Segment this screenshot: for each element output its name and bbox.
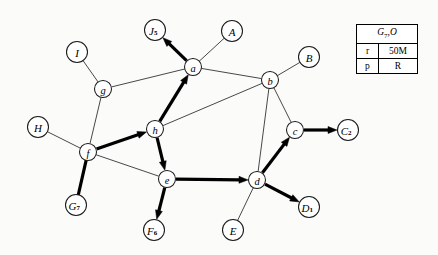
node-subscript-F6: 6 (154, 229, 158, 237)
graph-node-J5[interactable]: J5 (145, 20, 166, 41)
graph-node-I[interactable]: I (67, 42, 88, 63)
graph-edge-e-d (176, 176, 248, 183)
table-row: p R (357, 58, 418, 73)
graph-node-B[interactable]: B (299, 47, 320, 68)
node-label-B: B (306, 52, 313, 64)
graph-edge-a-J5 (163, 38, 187, 61)
node-subscript-C2: 2 (348, 129, 352, 137)
node-label-H: H (33, 122, 43, 134)
graph-node-c[interactable]: c (287, 122, 304, 139)
graph-edge-f-h (97, 132, 147, 150)
node-subscript-D1: 1 (309, 206, 313, 214)
table-cell-key-p: p (357, 58, 379, 73)
table-header-cell: G7,O (357, 25, 418, 44)
graph-node-e[interactable]: e (159, 171, 176, 188)
table-cell-key-r: r (357, 43, 379, 58)
node-label-A: A (228, 26, 236, 38)
graph-edge-I-g (83, 61, 98, 82)
node-label-E: E (229, 225, 237, 237)
graph-node-f[interactable]: f (80, 144, 97, 161)
graph-node-g[interactable]: g (95, 81, 112, 98)
graph-edge-b-d (258, 89, 269, 171)
graph-edge-B-b (278, 63, 300, 76)
graph-edge-H-f (48, 132, 80, 148)
graph-node-h[interactable]: h (147, 121, 164, 138)
graph-edge-A-a (200, 38, 224, 60)
graph-node-D1[interactable]: D1 (299, 197, 320, 218)
table-header-tail: ,O (388, 27, 397, 37)
graph-edge-e-F6 (156, 188, 165, 220)
table-header-row: G7,O (357, 25, 418, 44)
arrowhead (137, 132, 147, 139)
node-label-a: a (190, 62, 195, 73)
graph-node-G7[interactable]: G7 (66, 195, 87, 216)
node-label-g: g (100, 84, 105, 95)
graph-edge-h-a (160, 75, 189, 122)
arrowhead (159, 161, 166, 171)
graph-edge-G7-f (78, 161, 86, 194)
node-label-b: b (267, 75, 272, 86)
graph-node-H[interactable]: H (28, 117, 49, 138)
arrowhead (156, 210, 163, 220)
node-subscript-G7: 7 (76, 204, 80, 212)
graph-edge-g-a (112, 69, 185, 87)
graph-node-C2[interactable]: C2 (338, 120, 359, 141)
graph-edge-f-e (97, 155, 159, 176)
node-label-e: e (165, 174, 170, 185)
arrowhead (290, 195, 300, 202)
node-label-h: h (152, 124, 157, 135)
graph-node-A[interactable]: A (222, 21, 243, 42)
table-cell-value-r: 50M (378, 43, 417, 58)
graph-node-b[interactable]: b (262, 72, 279, 89)
graph-edge-d-D1 (265, 184, 299, 202)
arrowhead (239, 176, 248, 183)
graph-info-table: G7,O r 50M p R (356, 24, 418, 74)
node-subscript-J5: 5 (154, 29, 158, 37)
graph-edge-a-b (202, 68, 261, 78)
graph-edge-g-f (90, 98, 101, 143)
graph-node-d[interactable]: d (249, 172, 266, 189)
node-label-d: d (254, 175, 260, 186)
graph-edge-b-c (274, 88, 291, 122)
arrowhead (328, 127, 337, 134)
graph-node-F6[interactable]: F6 (144, 220, 165, 241)
graph-edge-h-e (157, 138, 166, 170)
graph-edge-c-C2 (304, 127, 337, 134)
graph-edge-E-d (238, 188, 253, 220)
table-row: r 50M (357, 43, 418, 58)
table-cell-value-p: R (378, 58, 417, 73)
graph-figure-canvas: J5AIBabgHhcC2fedG7D1EF6 G7,O r 50M p R (0, 0, 438, 255)
graph-node-a[interactable]: a (185, 59, 202, 76)
graph-edge-d-c (262, 137, 289, 173)
graph-node-E[interactable]: E (223, 220, 244, 241)
node-label-c: c (293, 125, 298, 136)
